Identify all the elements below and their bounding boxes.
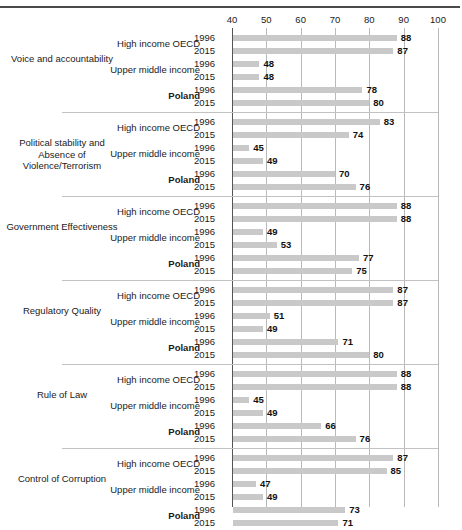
series-label: Poland [72,510,200,522]
bar [233,184,356,190]
bar-value-label: 88 [401,380,412,393]
bar-value-label: 88 [401,367,412,380]
bar [233,255,359,261]
x-tick-40: 40 [227,14,238,25]
indicator-name-label: Government Effectiveness [6,221,118,233]
bar-value-label: 49 [267,225,278,238]
series-label: Upper middle income [72,400,200,412]
series-label: Upper middle income [72,484,200,496]
indicator-group: 199688201588199645201549199666201576 [0,364,462,448]
bar [233,326,263,332]
bar [233,507,345,513]
x-tick-100: 100 [430,14,446,25]
indicator-name-label: Control of Corruption [6,473,118,485]
bar-value-label: 80 [373,348,384,361]
bar-value-label: 73 [349,503,360,516]
x-tick-60: 60 [295,14,306,25]
chart-row: 199677 [0,251,462,264]
series-label: High income OECD [72,458,200,470]
group-separator [62,364,438,365]
chart-row: 199671 [0,335,462,348]
indicator-name-label: Rule of Law [6,389,118,401]
bar-value-label: 74 [353,128,364,141]
chart-row: 199666 [0,419,462,432]
series-label: Poland [72,258,200,270]
bar [233,100,369,106]
indicator-group: 199687201587199651201549199671201580 [0,280,462,364]
chart-row: 199673 [0,503,462,516]
chart-row: 201571 [0,516,462,529]
bar-value-label: 76 [360,180,371,193]
x-tick-80: 80 [364,14,375,25]
bar [233,216,397,222]
bar-value-label: 78 [366,83,377,96]
bar-value-label: 88 [401,199,412,212]
series-label: High income OECD [72,38,200,50]
bar [233,145,249,151]
chart-row: 199688 [0,199,462,212]
bar [233,287,393,293]
bar-value-label: 76 [360,432,371,445]
indicator-name-label: Voice and accountability [6,53,118,65]
bar [233,61,259,67]
bar-value-label: 66 [325,419,336,432]
bar-value-label: 75 [356,264,367,277]
bar-value-label: 87 [397,296,408,309]
bar-value-label: 70 [339,167,350,180]
bar-value-label: 83 [384,115,395,128]
x-tick-50: 50 [261,14,272,25]
chart-row: 199687 [0,451,462,464]
chart-row: 199687 [0,283,462,296]
bar [233,268,352,274]
bar-value-label: 88 [401,31,412,44]
bar [233,436,356,442]
bar-value-label: 48 [263,57,274,70]
bar-value-label: 71 [342,516,353,529]
bar-value-label: 80 [373,96,384,109]
indicator-name-label: Regulatory Quality [6,305,118,317]
chart-row: 199688 [0,31,462,44]
bar [233,74,259,80]
series-label: Poland [72,174,200,186]
bar [233,313,270,319]
bar [233,352,369,358]
group-separator [62,280,438,281]
chart-row: 201553 [0,238,462,251]
series-label: High income OECD [72,290,200,302]
bar [233,339,338,345]
bar [233,132,349,138]
indicator-group: 199688201588199649201553199677201575 [0,196,462,280]
bar [233,300,393,306]
chart-row: 199683 [0,115,462,128]
bar [233,158,263,164]
bar [233,35,397,41]
series-label: High income OECD [72,122,200,134]
bar [233,203,397,209]
bar [233,229,263,235]
series-label: High income OECD [72,374,200,386]
bar-value-label: 87 [397,451,408,464]
chart-row: 199688 [0,367,462,380]
bar-value-label: 47 [260,477,271,490]
chart-rows: 1996882015871996482015481996782015801996… [0,28,462,530]
chart-row: 201549 [0,322,462,335]
chart-row: 201549 [0,490,462,503]
bar-value-label: 49 [267,154,278,167]
series-label: Poland [72,90,200,102]
chart-row: 199678 [0,83,462,96]
bar [233,481,256,487]
chart-row: 201576 [0,180,462,193]
group-separator [62,196,438,197]
chart-row: 201580 [0,96,462,109]
bar [233,410,263,416]
bar-value-label: 87 [397,283,408,296]
bar [233,119,380,125]
x-tick-70: 70 [330,14,341,25]
bar [233,468,387,474]
bar-value-label: 85 [391,464,402,477]
chart-row: 201549 [0,406,462,419]
chart-row: 201575 [0,264,462,277]
bar [233,87,362,93]
bar [233,171,335,177]
